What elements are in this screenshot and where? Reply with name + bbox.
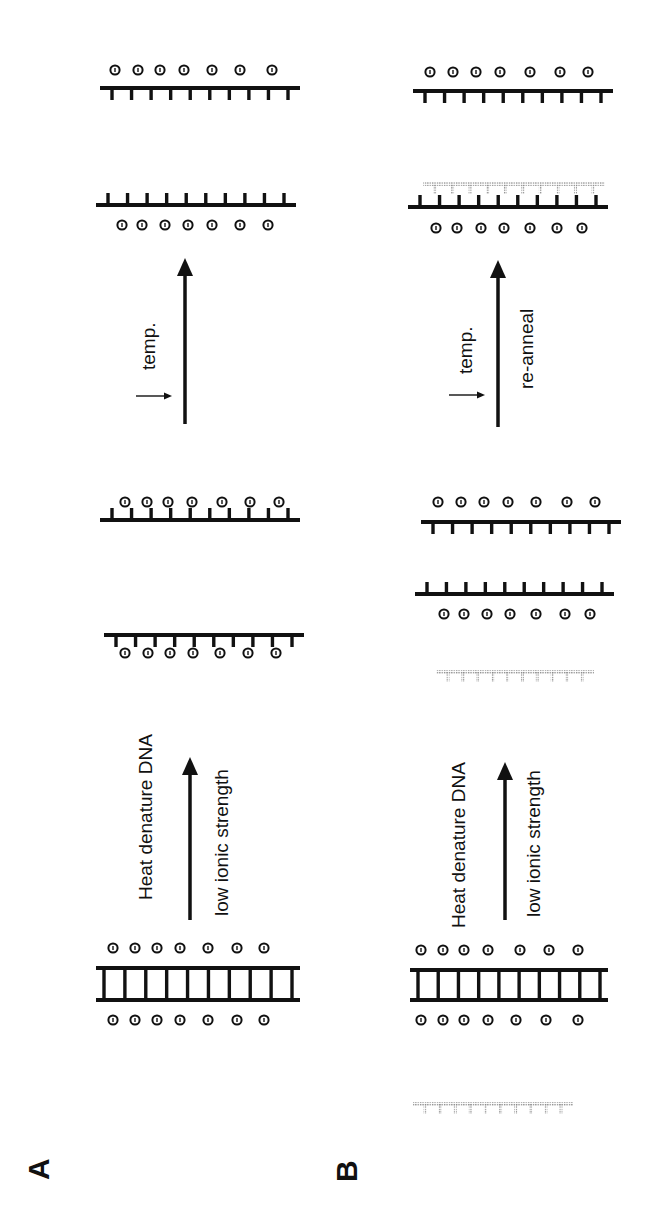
panel-b-temp-label: temp.: [455, 326, 477, 374]
base-tooth: [499, 1104, 502, 1114]
base-tooth: [486, 184, 489, 194]
small-arrowhead-icon: [477, 392, 485, 399]
base-tooth: [469, 1104, 472, 1114]
base-tooth: [521, 184, 524, 194]
small-arrowhead-icon: [164, 393, 172, 400]
base-tooth: [556, 184, 559, 194]
base-tooth: [581, 672, 584, 682]
base-tooth: [451, 184, 454, 194]
base-tooth: [521, 672, 524, 682]
base-tooth: [454, 1104, 457, 1114]
diagram-canvas: [0, 0, 647, 1213]
base-tooth: [504, 184, 507, 194]
arrowhead-icon: [182, 757, 198, 775]
base-tooth: [560, 1104, 563, 1114]
base-tooth: [424, 1104, 427, 1114]
base-tooth: [439, 1104, 442, 1114]
panel-b-heat-denature-label: Heat denature DNA: [448, 762, 470, 928]
base-tooth: [551, 672, 554, 682]
probe-strand-left: [413, 1102, 573, 1106]
panel-b-re-anneal-label: re-anneal: [516, 309, 538, 389]
base-tooth: [539, 184, 542, 194]
base-tooth: [592, 184, 595, 194]
arrowhead-icon: [497, 762, 513, 780]
base-tooth: [514, 1104, 517, 1114]
base-tooth: [536, 672, 539, 682]
base-tooth: [476, 672, 479, 682]
panel-letter-a: A: [22, 1158, 56, 1180]
base-tooth: [506, 672, 509, 682]
probe-strand-middle: [436, 670, 594, 674]
base-tooth: [461, 672, 464, 682]
base-tooth: [484, 1104, 487, 1114]
base-tooth: [469, 184, 472, 194]
arrowhead-icon: [177, 258, 193, 276]
base-tooth: [574, 184, 577, 194]
base-tooth: [544, 1104, 547, 1114]
panel-a-low-ionic-strength-label: low ionic strength: [211, 769, 233, 916]
dna-denaturation-figure: A Heat denature DNA low ionic strength t…: [0, 0, 647, 1213]
panel-b-low-ionic-strength-label: low ionic strength: [523, 770, 545, 917]
panel-a-heat-denature-label: Heat denature DNA: [135, 734, 157, 900]
base-tooth: [447, 672, 450, 682]
arrowhead-icon: [490, 260, 506, 278]
base-tooth: [529, 1104, 532, 1114]
panel-letter-b: B: [330, 1160, 364, 1182]
base-tooth: [491, 672, 494, 682]
base-tooth: [566, 672, 569, 682]
base-tooth: [434, 184, 437, 194]
hybrid-strand-probe: [423, 182, 605, 186]
panel-a-temp-label: temp.: [138, 322, 160, 370]
